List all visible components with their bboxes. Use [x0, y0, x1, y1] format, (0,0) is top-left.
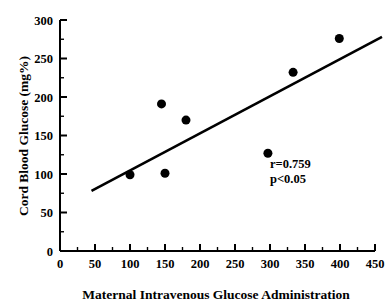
y-tick-label: 300 [34, 14, 53, 28]
y-tick-label: 250 [34, 52, 53, 66]
scatter-plot-figure: 050100150200250300 050100150200250300350… [0, 0, 392, 305]
correlation-label: r=0.759 [270, 157, 311, 171]
y-tick-label: 200 [34, 91, 53, 105]
y-axis-title: Cord Blood Glucose (mg%) [16, 56, 31, 216]
x-tick-label: 250 [226, 257, 245, 271]
data-point [157, 99, 166, 108]
data-point [289, 68, 298, 77]
y-tick-label: 0 [47, 245, 53, 259]
x-tick-label: 50 [89, 257, 102, 271]
p-value-label: p<0.05 [270, 172, 306, 186]
x-tick-label: 400 [331, 257, 350, 271]
statistics-annotation: r=0.759p<0.05 [270, 157, 311, 186]
x-tick-label: 300 [261, 257, 280, 271]
x-tick-label: 0 [57, 257, 63, 271]
y-tick-label: 150 [34, 129, 53, 143]
data-point [126, 170, 135, 179]
x-tick-label: 200 [191, 257, 210, 271]
x-tick-label: 350 [296, 257, 315, 271]
x-tick-label: 100 [121, 257, 140, 271]
chart-canvas: 050100150200250300 050100150200250300350… [0, 0, 392, 305]
data-point [335, 34, 344, 43]
data-point [161, 169, 170, 178]
y-tick-label: 100 [34, 168, 53, 182]
data-point [182, 116, 191, 125]
x-tick-label: 150 [156, 257, 175, 271]
x-axis-title: Maternal Intravenous Glucose Administrat… [82, 287, 350, 302]
x-tick-label: 450 [366, 257, 385, 271]
y-tick-label: 50 [41, 206, 54, 220]
